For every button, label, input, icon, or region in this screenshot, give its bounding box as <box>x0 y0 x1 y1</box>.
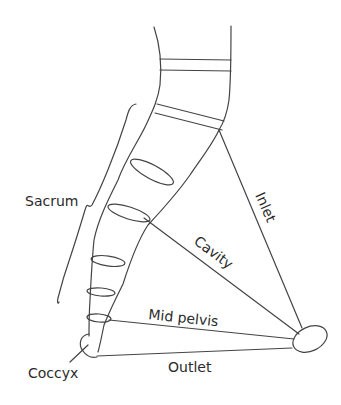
outlet-line <box>97 348 292 356</box>
label-cavity: Cavity <box>191 233 236 272</box>
pelvis-diagram: Sacrum Coccyx Inlet Cavity Mid pelvis Ou… <box>0 0 341 405</box>
sacral-segments <box>87 155 177 323</box>
label-sacrum: Sacrum <box>25 193 78 209</box>
label-outlet: Outlet <box>168 359 212 375</box>
sacrum-outline <box>89 26 231 352</box>
coccyx-shape <box>80 334 97 357</box>
label-coccyx: Coccyx <box>28 365 78 381</box>
label-mid-pelvis: Mid pelvis <box>148 306 219 329</box>
inlet-line <box>219 130 302 328</box>
pubic-symphysis <box>289 321 332 358</box>
vertebra-bands <box>155 59 231 130</box>
